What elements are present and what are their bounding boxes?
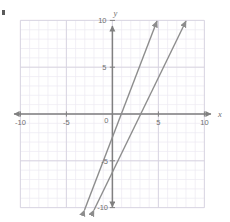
x-tick-label-neg10: -10 bbox=[15, 118, 26, 127]
y-tick-label-neg10: -10 bbox=[97, 203, 108, 212]
axis-labels: -10 -5 5 10 10 5 -5 -10 0 y x bbox=[15, 8, 222, 213]
y-tick-label-neg5: -5 bbox=[101, 157, 108, 166]
line-1 bbox=[85, 21, 158, 210]
x-tick-label-10: 10 bbox=[200, 118, 208, 127]
corner-mark bbox=[2, 10, 5, 15]
x-tick-label-5: 5 bbox=[156, 118, 160, 127]
y-axis-name: y bbox=[113, 8, 118, 18]
x-tick-label-neg5: -5 bbox=[63, 118, 70, 127]
y-tick-label-5: 5 bbox=[102, 63, 106, 72]
x-axis-name: x bbox=[217, 109, 222, 119]
graph-figure: -10 -5 5 10 10 5 -5 -10 0 y x bbox=[0, 0, 230, 222]
y-tick-label-10: 10 bbox=[98, 16, 106, 25]
plotted-lines bbox=[85, 21, 187, 210]
coordinate-plane-svg: -10 -5 5 10 10 5 -5 -10 0 y x bbox=[0, 0, 230, 222]
origin-label: 0 bbox=[104, 116, 108, 125]
